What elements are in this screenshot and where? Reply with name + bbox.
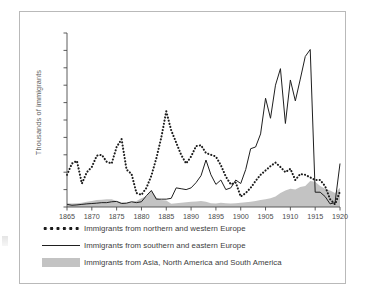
legend-key-solid-icon bbox=[40, 240, 84, 251]
legend-label: Immigrants from southern and eastern Eur… bbox=[84, 241, 246, 250]
y-axis-title: Thousands of immigrants bbox=[34, 48, 43, 178]
page-edge-artifact bbox=[2, 236, 8, 246]
legend-label: Immigrants from Asia, North America and … bbox=[84, 258, 282, 267]
legend-key-area-swatch-icon bbox=[40, 257, 84, 268]
legend-key-dotted-icon bbox=[40, 223, 84, 234]
legend-item-asia-north-south-america: Immigrants from Asia, North America and … bbox=[40, 254, 335, 271]
legend-item-southern-eastern-europe: Immigrants from southern and eastern Eur… bbox=[40, 237, 335, 254]
chart-legend: Immigrants from northern and western Eur… bbox=[40, 220, 335, 271]
legend-item-northern-western-europe: Immigrants from northern and western Eur… bbox=[40, 220, 335, 237]
legend-label: Immigrants from northern and western Eur… bbox=[84, 224, 246, 233]
chart-figure: 01002003004005006007008009001,000 186518… bbox=[19, 11, 346, 284]
